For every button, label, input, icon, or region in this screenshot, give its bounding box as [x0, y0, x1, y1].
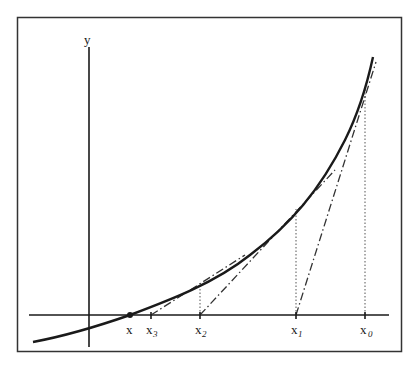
tangent-x2: [151, 255, 245, 315]
newton-method-diagram: y x x 3 x 2 x 1 x 0: [0, 0, 418, 370]
label-x0-subscript: 0: [368, 329, 373, 339]
label-x3: x: [146, 322, 153, 337]
label-x1: x: [291, 322, 298, 337]
function-curve: [33, 57, 373, 342]
label-x2: x: [195, 322, 202, 337]
label-x1-subscript: 1: [298, 329, 303, 339]
label-x3-subscript: 3: [152, 329, 158, 339]
figure-frame: [18, 18, 402, 352]
tangent-x0: [296, 62, 376, 315]
label-root: x: [126, 322, 133, 337]
y-axis-label: y: [84, 32, 91, 47]
label-x2-subscript: 2: [202, 329, 207, 339]
label-x0: x: [360, 322, 367, 337]
root-point: [127, 312, 133, 318]
